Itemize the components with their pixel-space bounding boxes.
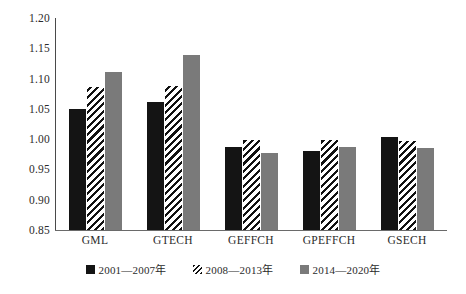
bar-group — [56, 18, 134, 230]
bar-chart-figure: 1.201.151.101.051.000.950.900.85 GMLGTEC… — [0, 0, 466, 294]
y-axis-tick-label: 0.85 — [29, 224, 50, 236]
bar — [105, 72, 122, 230]
plot-area: 1.201.151.101.051.000.950.900.85 — [56, 18, 446, 230]
legend-item[interactable]: 2008—2013年 — [193, 261, 274, 277]
bar-group — [134, 18, 212, 230]
x-axis-category-label: GTECH — [153, 234, 193, 246]
legend-label: 2014—2020年 — [313, 261, 381, 277]
legend-swatch-icon — [300, 265, 309, 274]
y-axis-tick-label: 1.00 — [29, 133, 50, 145]
x-axis-line — [55, 230, 447, 231]
bar — [303, 151, 320, 230]
chart-legend: 2001—2007年2008—2013年2014—2020年 — [0, 261, 466, 277]
legend-item[interactable]: 2001—2007年 — [86, 261, 167, 277]
bars-layer — [56, 18, 446, 230]
legend-label: 2008—2013年 — [206, 261, 274, 277]
bar — [69, 109, 86, 230]
legend-swatch-icon — [86, 265, 95, 274]
bar — [417, 148, 434, 230]
y-axis-tick-label: 1.10 — [29, 73, 50, 85]
bar — [165, 86, 182, 230]
bar — [147, 102, 164, 230]
bar-group — [368, 18, 446, 230]
legend-item[interactable]: 2014—2020年 — [300, 261, 381, 277]
bar — [381, 137, 398, 230]
x-axis-category-label: GPEFFCH — [303, 234, 356, 246]
bar — [243, 140, 260, 230]
bar — [399, 141, 416, 230]
x-axis-category-label: GSECH — [387, 234, 426, 246]
y-axis-tick-label: 1.20 — [29, 12, 50, 24]
bar — [87, 87, 104, 230]
x-axis-category-labels: GMLGTECHGEFFCHGPEFFCHGSECH — [56, 234, 446, 254]
x-axis-category-label: GEFFCH — [228, 234, 274, 246]
legend-label: 2001—2007年 — [99, 261, 167, 277]
bar — [321, 140, 338, 230]
bar-group — [290, 18, 368, 230]
bar — [183, 55, 200, 230]
y-axis-tick-label: 1.15 — [29, 42, 50, 54]
y-axis-tick-label: 0.95 — [29, 163, 50, 175]
legend-swatch-icon — [193, 265, 202, 274]
bar — [261, 153, 278, 230]
bar-group — [212, 18, 290, 230]
y-axis-tick-label: 1.05 — [29, 103, 50, 115]
bar — [225, 147, 242, 230]
y-axis-tick-label: 0.90 — [29, 194, 50, 206]
bar — [339, 147, 356, 230]
x-axis-category-label: GML — [82, 234, 108, 246]
